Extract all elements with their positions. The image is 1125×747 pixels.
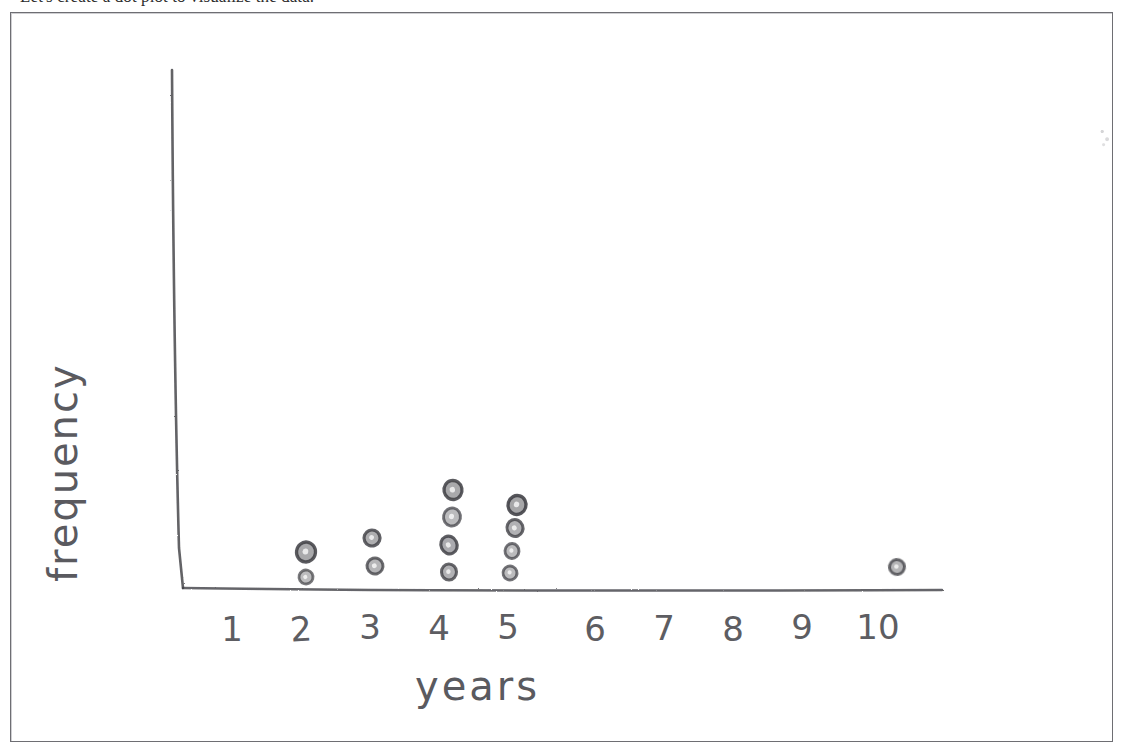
dot-mark: [442, 506, 462, 527]
plot-dots: [295, 479, 905, 587]
x-axis-line: [183, 588, 942, 591]
dot-mark: [501, 564, 520, 583]
worksheet-page: Let's create a dot plot to visualize the…: [0, 0, 1125, 747]
dot-mark: [441, 564, 457, 581]
x-tick-label-1: 1: [206, 612, 258, 646]
x-tick-label-7: 7: [638, 611, 690, 645]
x-tick-label-3: 3: [344, 610, 396, 644]
dot-mark: [365, 556, 385, 576]
dot-mark: [438, 533, 460, 556]
x-tick-label-4: 4: [413, 611, 465, 645]
dot-mark: [442, 479, 463, 501]
x-tick-label-10: 10: [852, 610, 904, 644]
dot-mark: [362, 528, 383, 549]
dot-mark: [296, 567, 315, 586]
dot-plot-drawing: [0, 0, 1125, 747]
x-tick-label-8: 8: [707, 612, 759, 646]
y-axis-line: [172, 70, 183, 588]
dot-mark: [505, 517, 526, 538]
y-axis-title: frequency: [42, 363, 84, 582]
plot-axes: [172, 70, 942, 591]
dot-mark: [506, 493, 529, 516]
x-tick-label-2: 2: [274, 610, 328, 648]
x-axis-title: years: [415, 665, 540, 707]
x-tick-label-6: 6: [569, 612, 621, 646]
x-tick-label-9: 9: [776, 610, 828, 644]
dot-mark: [295, 541, 316, 563]
dot-mark: [505, 543, 520, 559]
x-tick-label-5: 5: [482, 610, 534, 644]
dot-mark: [889, 559, 905, 575]
